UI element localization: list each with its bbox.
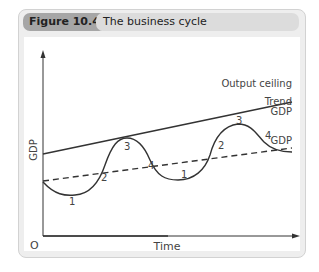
origin-label: O — [30, 239, 39, 252]
business-cycle-chart: 1 2 3 4 1 2 3 4 Output ceiling Trend GDP… — [0, 0, 319, 272]
phase-label-4a: 4 — [148, 160, 154, 171]
phase-label-1a: 1 — [69, 196, 75, 207]
gdp-label: GDP — [271, 135, 292, 146]
phase-label-3a: 3 — [124, 141, 130, 152]
x-axis-label: Time — [153, 240, 181, 253]
phase-label-2b: 2 — [218, 140, 224, 151]
phase-label-1b: 1 — [181, 169, 187, 180]
output-ceiling-label: Output ceiling — [221, 78, 292, 89]
phase-label-3b: 3 — [236, 115, 242, 126]
phase-label-2a: 2 — [101, 172, 107, 183]
y-axis-label: GDP — [28, 139, 39, 160]
trend-label-line2: GDP — [271, 106, 292, 117]
